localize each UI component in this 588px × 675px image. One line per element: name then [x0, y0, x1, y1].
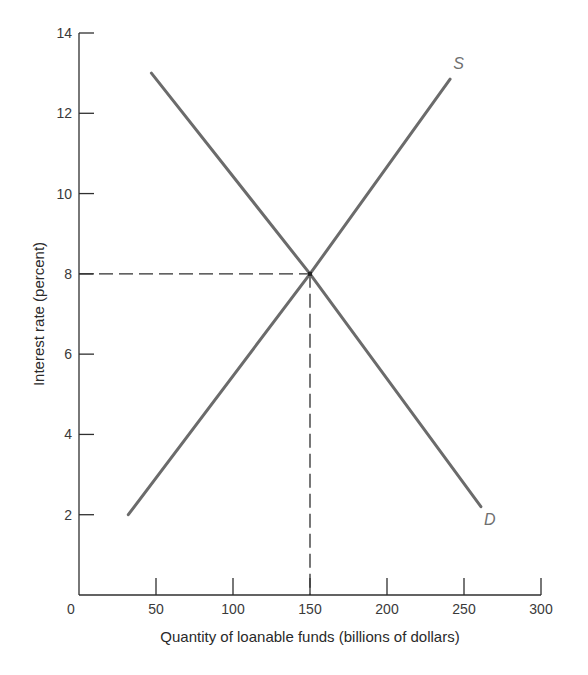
loanable-funds-chart: 2468101214 050100150200250300 S D Quanti… — [0, 0, 588, 675]
y-tick-label: 12 — [56, 105, 72, 121]
y-tick-label: 14 — [56, 25, 72, 41]
y-axis-title: Interest rate (percent) — [30, 242, 47, 386]
x-tick-label: 250 — [452, 601, 476, 617]
y-tick-label: 6 — [64, 346, 72, 362]
equilibrium-point — [308, 272, 312, 276]
y-tick-label: 4 — [64, 426, 72, 442]
x-tick-label: 0 — [67, 601, 75, 617]
x-tick-label: 300 — [529, 601, 553, 617]
supply-curve-label: S — [453, 55, 464, 72]
y-tick-label: 8 — [64, 266, 72, 282]
x-tick-label: 200 — [375, 601, 399, 617]
x-axis-title: Quantity of loanable funds (billions of … — [160, 628, 459, 645]
supply-curve — [128, 79, 450, 515]
y-tick-label: 10 — [56, 186, 72, 202]
x-tick-label: 50 — [148, 601, 164, 617]
y-tick-label: 2 — [64, 507, 72, 523]
x-tick-label: 150 — [298, 601, 322, 617]
demand-curve-label: D — [484, 511, 496, 528]
x-tick-label: 100 — [221, 601, 245, 617]
demand-curve — [151, 73, 481, 507]
